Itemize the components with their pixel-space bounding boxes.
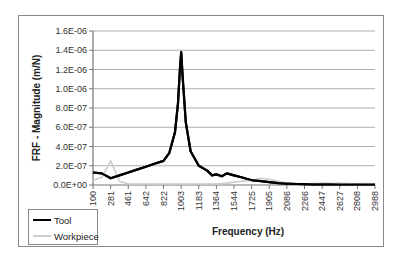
- y-tick-label: 6.0E-07: [55, 122, 87, 132]
- x-tick-label: 1003: [176, 191, 186, 211]
- y-tick-label: 0.0E+00: [53, 180, 87, 190]
- legend-label: Tool: [54, 215, 71, 226]
- x-tick-label: 642: [141, 191, 151, 206]
- x-tick-label: 2086: [282, 191, 292, 211]
- y-tick-label: 1.6E-06: [55, 26, 87, 36]
- y-tick-label: 2.0E-07: [55, 161, 87, 171]
- x-tick-label: 2627: [335, 191, 345, 211]
- y-tick-label: 1.0E-06: [55, 84, 87, 94]
- series-line-workpiece: [93, 161, 375, 184]
- x-tick-label: 1364: [211, 191, 221, 211]
- y-tick-label: 8.0E-07: [55, 103, 87, 113]
- legend-item-workpiece: Workpiece: [33, 229, 99, 243]
- x-tick-label: 461: [123, 191, 133, 206]
- y-tick-label: 4.0E-07: [55, 142, 87, 152]
- x-tick-label: 2988: [370, 191, 380, 211]
- x-tick-label: 281: [106, 191, 116, 206]
- y-tick-label: 1.2E-06: [55, 65, 87, 75]
- legend-swatch-tool: [33, 219, 51, 221]
- y-axis-title: FRF - Magnitude (m/N): [31, 55, 42, 162]
- x-tick-label: 1544: [229, 191, 239, 211]
- x-tick-label: 2447: [317, 191, 327, 211]
- legend-item-tool: Tool: [33, 213, 71, 227]
- x-tick-label: 100: [88, 191, 98, 206]
- x-tick-label: 2266: [300, 191, 310, 211]
- x-axis-title: Frequency (Hz): [212, 226, 284, 237]
- legend-label: Workpiece: [54, 231, 99, 242]
- x-tick-label: 1725: [247, 191, 257, 211]
- chart-legend: Tool Workpiece: [28, 209, 98, 245]
- x-tick-label: 1183: [194, 191, 204, 210]
- x-tick-label: 822: [159, 191, 169, 206]
- y-tick-label: 1.4E-06: [55, 45, 87, 55]
- legend-swatch-workpiece: [33, 235, 51, 237]
- x-tick-label: 2808: [352, 191, 362, 211]
- series-line-tool: [93, 52, 375, 184]
- x-tick-label: 1905: [264, 191, 274, 211]
